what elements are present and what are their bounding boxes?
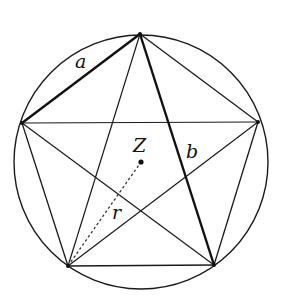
diagonal-right-bottomleft: [68, 122, 258, 266]
side-bottom: [68, 265, 214, 266]
vertex-left: [20, 121, 24, 125]
diagonal-left-right: [22, 122, 258, 123]
label-r: r: [112, 201, 123, 223]
label-b: b: [186, 140, 198, 162]
center-point: [138, 159, 143, 164]
side-a-bold: [22, 34, 140, 123]
vertex-right: [256, 120, 260, 124]
vertex-bottom-left: [66, 264, 70, 268]
vertex-bottom-right: [212, 263, 216, 267]
vertex-top: [138, 32, 142, 36]
label-a: a: [75, 50, 86, 72]
radius-r-dotted: [68, 162, 141, 266]
side-top-right: [140, 34, 258, 122]
pentagon-pentagram-diagram: a b Z r: [0, 0, 283, 300]
side-right-bottomright: [214, 122, 258, 265]
label-z: Z: [132, 134, 147, 156]
diagonal-b-bold: [140, 34, 214, 265]
